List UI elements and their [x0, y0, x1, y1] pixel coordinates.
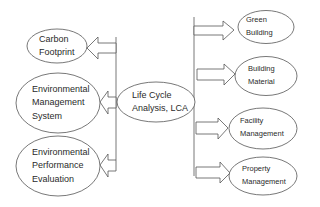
label-line: Building — [248, 63, 275, 76]
label-building-material: Building Material — [248, 64, 275, 88]
label-line: Material — [248, 76, 275, 89]
label-environmental-management-system: Environmental Management System — [32, 83, 90, 123]
label-line: Management — [32, 96, 85, 109]
label-green-building: Green Building — [246, 15, 273, 39]
label-line: Analysis, LCA — [132, 102, 188, 115]
arrow-to-building-material — [197, 64, 235, 85]
label-line: Environmental — [32, 83, 90, 96]
arrow-to-facility-management — [196, 118, 228, 139]
arrow-to-environmental-management-system — [100, 91, 116, 114]
label-line: Footprint — [39, 46, 75, 59]
label-environmental-performance-evaluation: Environmental Performance Evaluation — [32, 146, 90, 186]
label-property-management: Property Management — [242, 164, 286, 188]
label-line: Facility — [240, 115, 263, 128]
label-line: Environmental — [32, 146, 90, 159]
label-line: Carbon — [39, 33, 69, 46]
arrow-to-property-management — [196, 162, 230, 183]
label-line: Performance — [32, 159, 84, 172]
label-line: Life Cycle — [132, 89, 172, 102]
label-line: Building — [246, 27, 273, 40]
label-line: Green — [246, 14, 267, 27]
label-facility-management: Facility Management — [240, 116, 284, 140]
label-line: Property — [242, 163, 270, 176]
arrow-to-carbon-footprint — [87, 37, 116, 59]
arrow-to-environmental-performance-evaluation — [100, 154, 116, 177]
label-line: System — [32, 110, 62, 123]
label-line: Management — [240, 128, 284, 141]
label-line: Management — [242, 176, 286, 189]
label-lca: Life Cycle Analysis, LCA — [132, 89, 188, 115]
label-carbon-footprint: Carbon Footprint — [39, 33, 75, 59]
arrow-to-green-building — [194, 21, 234, 40]
label-line: Evaluation — [32, 173, 74, 186]
